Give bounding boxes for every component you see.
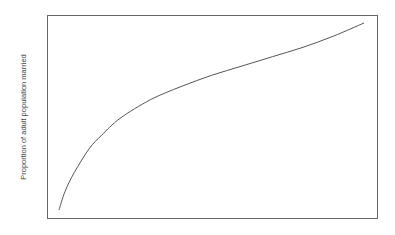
chart-canvas bbox=[0, 0, 395, 235]
y-axis-label: Proportion of adult population married bbox=[19, 54, 28, 180]
plot-frame bbox=[48, 16, 378, 219]
data-line bbox=[59, 23, 364, 210]
